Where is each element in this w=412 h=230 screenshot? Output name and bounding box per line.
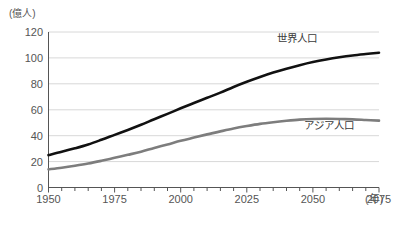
x-major-ticks bbox=[49, 188, 380, 193]
y-tick-label: 80 bbox=[31, 78, 43, 90]
series-annotation-asia: アジア人口 bbox=[304, 119, 354, 131]
series-annotation-world: 世界人口 bbox=[277, 32, 317, 44]
series-paths bbox=[49, 53, 380, 170]
y-axis-unit-label: (億人) bbox=[9, 7, 36, 19]
x-tick-label: 2025 bbox=[235, 193, 259, 205]
x-tick-label: 2000 bbox=[168, 193, 192, 205]
y-tick-label: 0 bbox=[37, 182, 43, 194]
series-annotations: 世界人口アジア人口 bbox=[277, 32, 354, 131]
y-tick-label: 20 bbox=[31, 156, 43, 168]
x-tick-label: 2050 bbox=[301, 193, 325, 205]
chart-svg: (億人) 020406080100120 1950197520002025205… bbox=[0, 0, 412, 230]
x-minor-ticks bbox=[62, 188, 366, 192]
y-tick-label: 100 bbox=[25, 52, 43, 64]
population-line-chart: (億人) 020406080100120 1950197520002025205… bbox=[0, 0, 412, 230]
y-tick-label: 60 bbox=[31, 104, 43, 116]
x-tick-labels: 195019752000202520502075 bbox=[36, 193, 391, 205]
series-line-world bbox=[49, 53, 380, 155]
x-tick-label: 1950 bbox=[36, 193, 60, 205]
x-tick-label: 1975 bbox=[102, 193, 126, 205]
y-tick-label: 120 bbox=[25, 26, 43, 38]
y-tick-labels: 020406080100120 bbox=[25, 26, 43, 194]
y-tick-label: 40 bbox=[31, 130, 43, 142]
x-axis-unit-label: (年) bbox=[365, 192, 383, 205]
